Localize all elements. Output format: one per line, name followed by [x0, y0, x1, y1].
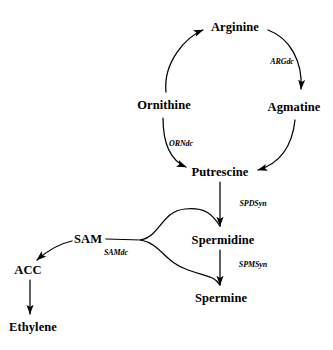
- enzyme-label-spmsyn: SPMSyn: [239, 260, 267, 269]
- edge-agmatine-to-putrescine: [258, 120, 295, 170]
- enzyme-label-samdc: SAMdc: [104, 248, 128, 257]
- node-agmatine: Agmatine: [268, 100, 321, 115]
- enzyme-label-argdc: ARGdc: [270, 57, 294, 66]
- edge-sam-branch-stem: [106, 239, 141, 240]
- node-acc: ACC: [14, 263, 41, 278]
- pathway-diagram: Arginine Agmatine Ornithine Putrescine S…: [0, 0, 333, 350]
- edge-ornithine-to-arginine: [166, 30, 203, 92]
- node-spermidine: Spermidine: [192, 233, 255, 248]
- edge-sam-to-acc: [37, 241, 72, 260]
- node-ethylene: Ethylene: [9, 320, 57, 335]
- enzyme-label-orndc: ORNdc: [169, 139, 193, 148]
- node-putrescine: Putrescine: [191, 165, 248, 180]
- node-ornithine: Ornithine: [137, 98, 191, 113]
- node-arginine: Arginine: [211, 20, 259, 35]
- enzyme-label-spdsyn: SPDSyn: [240, 199, 267, 208]
- node-spermine: Spermine: [195, 291, 247, 306]
- node-sam: SAM: [74, 232, 102, 247]
- pathway-edges: [0, 0, 333, 350]
